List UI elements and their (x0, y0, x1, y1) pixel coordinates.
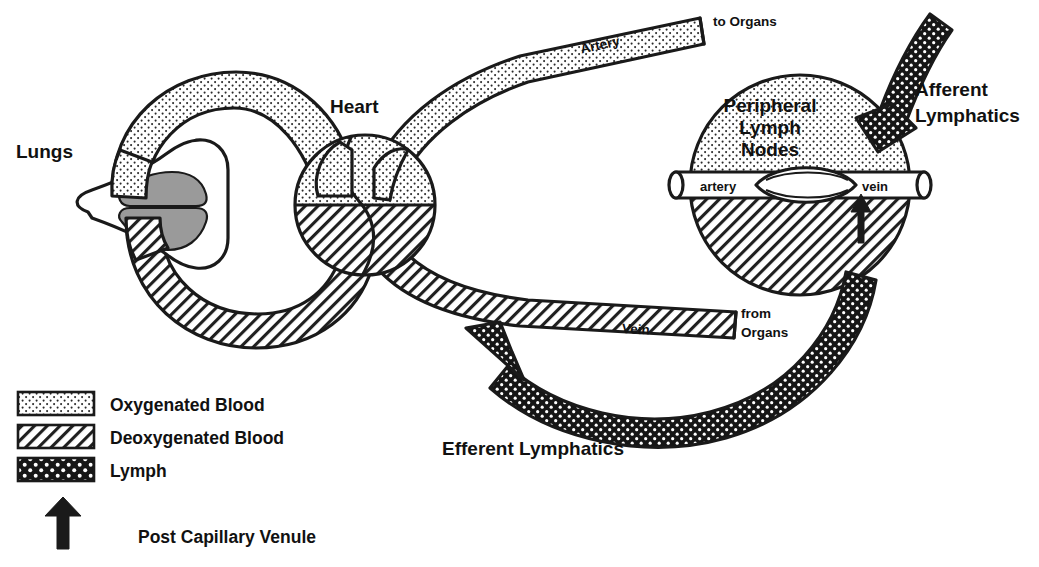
legend-label-oxygenated: Oxygenated Blood (110, 395, 265, 415)
label-peripheral-line3: Nodes (741, 139, 799, 160)
label-heart: Heart (330, 96, 379, 117)
label-efferent: Efferent Lymphatics (442, 438, 624, 459)
swatch-oxygenated (18, 392, 94, 415)
label-afferent-line2: Lymphatics (915, 105, 1020, 126)
legend-label-lymph: Lymph (110, 461, 167, 481)
legend-label-deoxygenated: Deoxygenated Blood (110, 428, 284, 448)
vessel-cap-left (669, 172, 683, 198)
label-peripheral-line1: Peripheral (724, 95, 817, 116)
circulatory-lymphatic-diagram: Lungs Heart Artery to Organs Vein from O… (0, 0, 1039, 567)
label-from-organs-line2: Organs (741, 325, 788, 340)
label-peripheral-line2: Lymph (739, 117, 801, 138)
label-afferent-line1: Afferent (915, 79, 989, 100)
swatch-lymph (18, 458, 94, 481)
legend-item-oxygenated: Oxygenated Blood (18, 392, 265, 415)
label-vein: Vein (622, 321, 651, 337)
diagram-canvas: Lungs Heart Artery to Organs Vein from O… (0, 0, 1039, 567)
capillary-bed (756, 168, 856, 203)
label-node-artery: artery (700, 179, 737, 194)
legend-item-deoxygenated: Deoxygenated Blood (18, 425, 284, 448)
label-lungs: Lungs (16, 141, 73, 162)
label-to-organs: to Organs (713, 14, 777, 29)
swatch-deoxygenated (18, 425, 94, 448)
legend-label-post-capillary-venule: Post Capillary Venule (138, 527, 316, 547)
legend-item-lymph: Lymph (18, 458, 167, 481)
label-node-vein: vein (862, 179, 888, 194)
label-from-organs-line1: from (741, 306, 771, 321)
vessel-cap-right (917, 172, 931, 198)
